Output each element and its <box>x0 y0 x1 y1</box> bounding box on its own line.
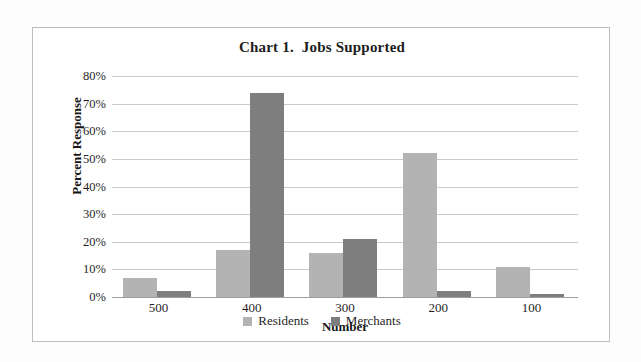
legend-label: Residents <box>258 313 309 329</box>
chart-title: Chart 1. Jobs Supported <box>33 39 611 56</box>
legend-label: Merchants <box>346 313 401 329</box>
legend-item-residents[interactable]: Residents <box>243 313 309 329</box>
y-tick-label: 10% <box>58 262 106 277</box>
bar-groups <box>112 76 578 297</box>
bar-group-200 <box>392 76 485 297</box>
bar-group-100 <box>485 76 578 297</box>
y-tick-label: 60% <box>58 124 106 139</box>
y-tick-label: 30% <box>58 207 106 222</box>
gridline-0 <box>112 297 578 298</box>
bar-merchants-400[interactable] <box>250 93 284 297</box>
y-axis-tick-labels: 0%10%20%30%40%50%60%70%80% <box>50 76 106 297</box>
y-tick-label: 0% <box>58 290 106 305</box>
plot-area <box>112 76 578 297</box>
y-tick-label: 50% <box>58 151 106 166</box>
bar-merchants-100[interactable] <box>530 294 564 297</box>
bar-residents-200[interactable] <box>403 153 437 297</box>
bar-merchants-300[interactable] <box>343 239 377 297</box>
bar-residents-500[interactable] <box>123 278 157 297</box>
y-tick-label: 20% <box>58 234 106 249</box>
legend-item-merchants[interactable]: Merchants <box>331 313 401 329</box>
chart-legend: ResidentsMerchants <box>33 313 611 329</box>
chart-frame: Chart 1. Jobs Supported Percent Response… <box>32 27 610 342</box>
y-tick-label: 70% <box>58 96 106 111</box>
bar-residents-300[interactable] <box>309 253 343 297</box>
bar-merchants-200[interactable] <box>437 291 471 297</box>
scanned-page: Chart 1. Jobs Supported Percent Response… <box>0 0 641 362</box>
y-tick-label: 80% <box>58 69 106 84</box>
y-tick-label: 40% <box>58 179 106 194</box>
bar-group-400 <box>205 76 298 297</box>
legend-swatch-icon <box>243 317 252 326</box>
bar-group-500 <box>112 76 205 297</box>
bar-group-300 <box>298 76 391 297</box>
bar-residents-400[interactable] <box>216 250 250 297</box>
bar-merchants-500[interactable] <box>157 291 191 297</box>
legend-swatch-icon <box>331 317 340 326</box>
bar-residents-100[interactable] <box>496 267 530 297</box>
